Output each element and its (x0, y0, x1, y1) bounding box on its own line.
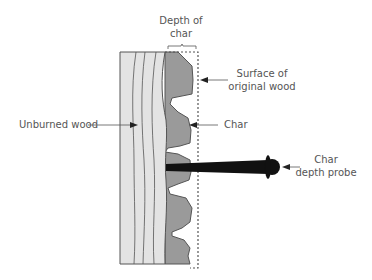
surface-label-1: Surface of (237, 68, 288, 79)
depth-bracket (168, 44, 196, 49)
char-depth-diagram: Depth of char Surface of original wood U… (0, 0, 372, 280)
surface-label-2: original wood (228, 81, 295, 92)
depth-of-char-label-2: char (170, 28, 193, 39)
unburned-wood-label: Unburned wood (19, 119, 98, 130)
probe-label-2: depth probe (295, 167, 356, 178)
char-label: Char (224, 119, 248, 130)
char-layer (165, 52, 193, 264)
unburned-wood (120, 52, 167, 264)
depth-of-char-label-1: Depth of (159, 15, 203, 26)
probe-label-1: Char (314, 154, 338, 165)
